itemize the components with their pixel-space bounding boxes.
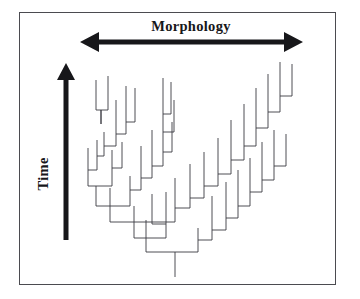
time-axis-label: Time: [36, 157, 51, 190]
phylogenetic-tree: [88, 62, 292, 277]
figure-root: Morphology Time: [0, 0, 360, 299]
morphology-arrow-icon: [80, 32, 303, 52]
time-arrow-icon: [57, 63, 75, 240]
axis-arrows: [57, 32, 303, 240]
tree-and-axes-canvas: [0, 0, 360, 299]
morphology-axis-label: Morphology: [11, 19, 360, 34]
